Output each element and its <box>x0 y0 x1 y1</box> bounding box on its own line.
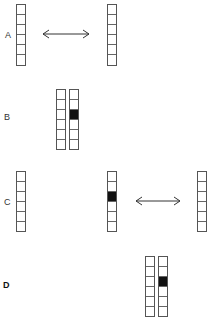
column-a-left <box>16 4 26 66</box>
double-arrow-icon-c <box>133 195 183 207</box>
filled-cell <box>159 277 167 287</box>
column-d-left <box>145 256 155 317</box>
column-a-right <box>107 4 117 66</box>
column-b-right <box>69 89 79 150</box>
column-c-right <box>197 171 207 232</box>
filled-cell <box>108 192 116 202</box>
row-label-d: D <box>3 281 10 290</box>
double-arrow-icon-a <box>40 28 92 40</box>
row-label-a: A <box>5 31 11 40</box>
column-c-middle <box>107 171 117 232</box>
row-label-b: B <box>4 113 10 122</box>
row-label-c: C <box>4 198 11 207</box>
column-b-left <box>56 89 66 150</box>
filled-cell <box>70 110 78 120</box>
column-c-left <box>16 171 26 232</box>
column-d-right <box>158 256 168 317</box>
